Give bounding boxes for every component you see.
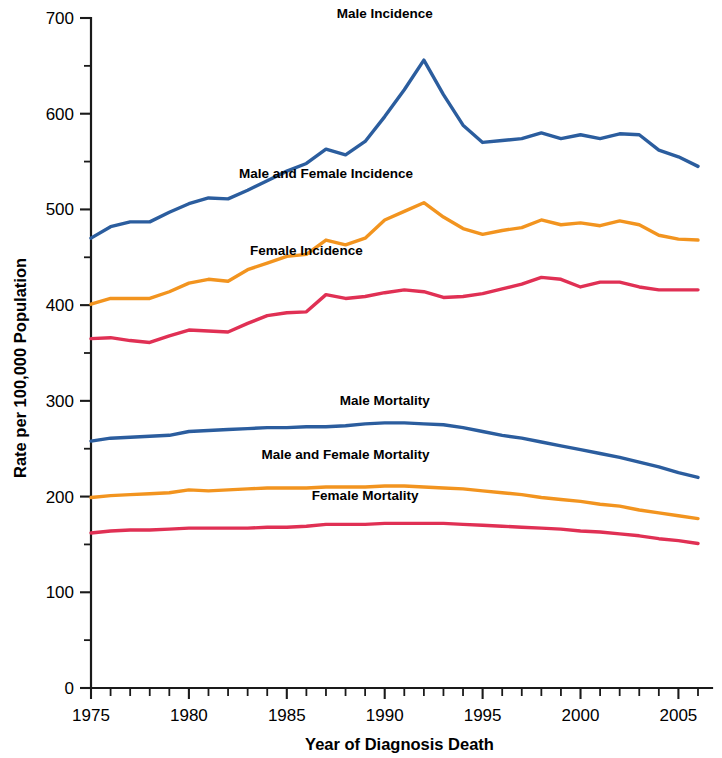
y-tick-label: 400 [46, 296, 74, 315]
y-tick-label: 700 [46, 9, 74, 28]
x-tick-label: 1975 [72, 706, 110, 725]
x-tick-label: 1980 [170, 706, 208, 725]
y-tick-label: 300 [46, 392, 74, 411]
y-tick-label: 0 [65, 679, 74, 698]
x-tick-label: 2000 [562, 706, 600, 725]
y-tick-label: 100 [46, 583, 74, 602]
chart-container: 0100200300400500600700197519801985199019… [0, 0, 722, 758]
y-tick-label: 500 [46, 200, 74, 219]
x-axis-title: Year of Diagnosis Death [305, 735, 494, 753]
y-tick-label: 600 [46, 105, 74, 124]
series-line-male-incidence [91, 60, 698, 238]
series-label-male-and-female-mortality: Male and Female Mortality [262, 447, 431, 462]
series-label-male-incidence: Male Incidence [337, 6, 434, 21]
y-axis-ticks: 0100200300400500600700 [46, 9, 91, 698]
x-tick-label: 1990 [366, 706, 404, 725]
y-tick-label: 200 [46, 488, 74, 507]
rates-line-chart: 0100200300400500600700197519801985199019… [0, 0, 722, 758]
series-group [91, 60, 698, 543]
series-line-female-mortality [91, 523, 698, 543]
series-label-female-incidence: Female Incidence [250, 243, 363, 258]
series-label-male-mortality: Male Mortality [340, 393, 431, 408]
series-line-male-and-female-incidence [91, 203, 698, 304]
x-tick-label: 1985 [268, 706, 306, 725]
series-label-female-mortality: Female Mortality [312, 488, 419, 503]
series-label-male-and-female-incidence: Male and Female Incidence [239, 166, 414, 181]
x-axis-ticks: 1975198019851990199520002005 [72, 688, 698, 725]
x-tick-label: 2005 [660, 706, 698, 725]
axes-group: 0100200300400500600700197519801985199019… [11, 9, 712, 753]
x-tick-label: 1995 [464, 706, 502, 725]
y-axis-title: Rate per 100,000 Population [11, 258, 29, 478]
